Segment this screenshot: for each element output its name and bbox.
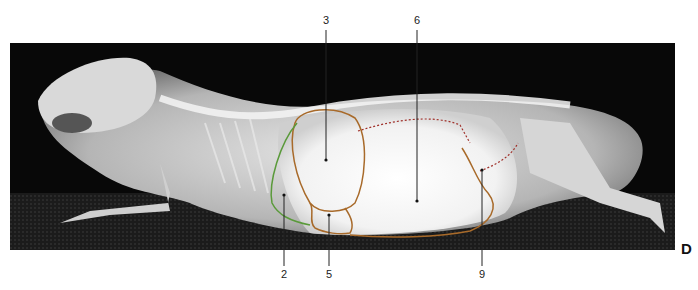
- label-9: 9: [479, 268, 485, 280]
- label-2: 2: [281, 268, 287, 280]
- leader-lines: [0, 0, 698, 290]
- label-5: 5: [326, 268, 332, 280]
- panel-letter: D: [681, 240, 692, 257]
- label-3: 3: [323, 14, 329, 26]
- label-6: 6: [414, 14, 420, 26]
